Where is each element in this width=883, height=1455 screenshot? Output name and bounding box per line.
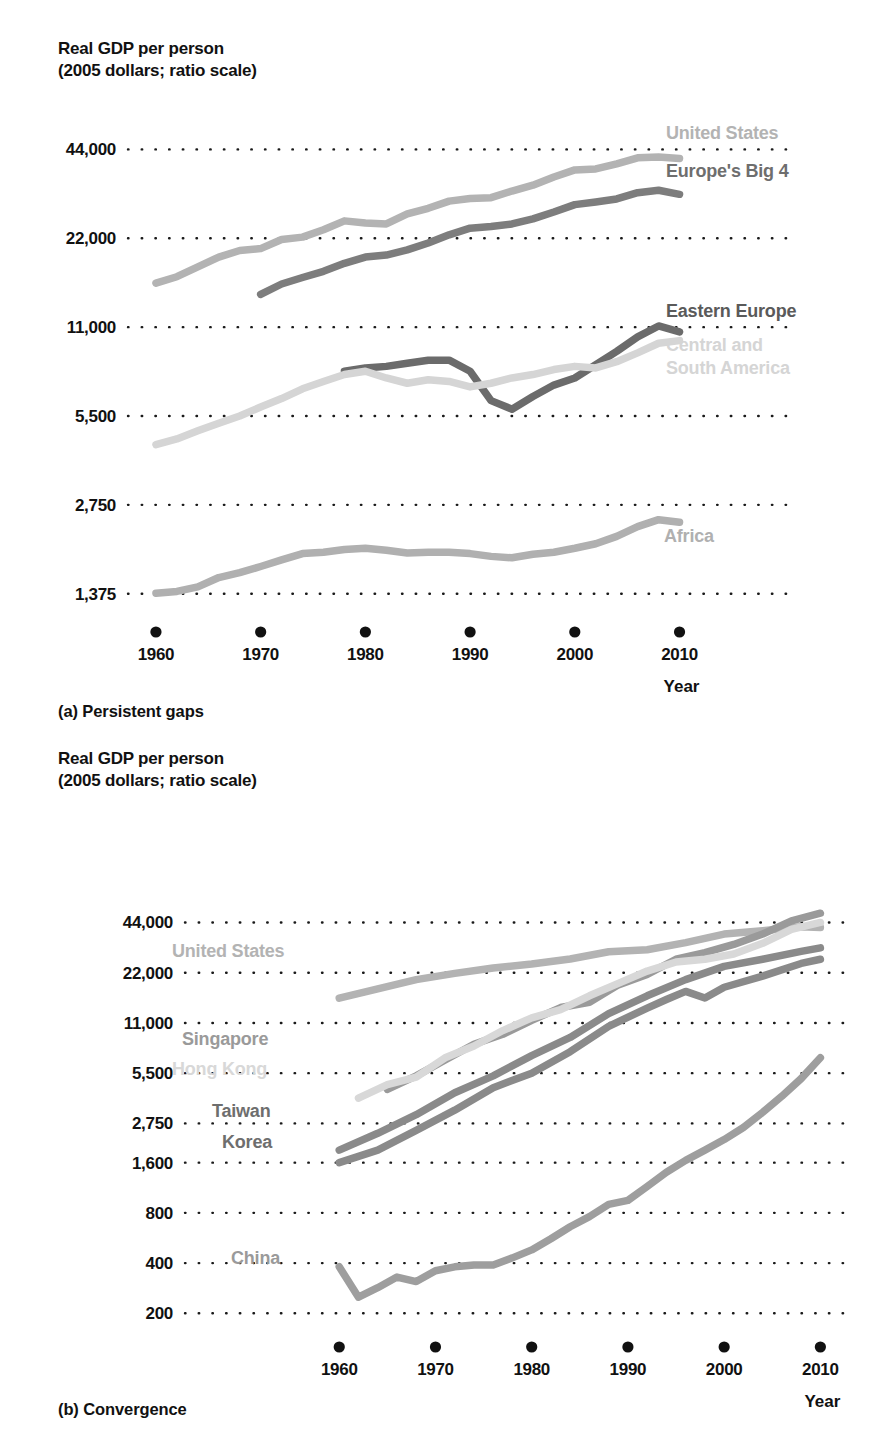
x-axis-tick-dot bbox=[569, 626, 580, 637]
panel-b-axis-title: Real GDP per person (2005 dollars; ratio… bbox=[58, 748, 257, 792]
x-axis-tick-label: 1960 bbox=[321, 1360, 358, 1379]
x-axis-tick-dot bbox=[360, 626, 371, 637]
panel-a-chart: 1,3752,7505,50011,00022,00044,0001960197… bbox=[0, 0, 883, 660]
series-label-taiwan: Taiwan bbox=[212, 1101, 270, 1121]
y-axis-tick-label: 1,600 bbox=[132, 1154, 173, 1173]
series-label-central-and-south-america-line2: South America bbox=[666, 358, 791, 378]
x-axis-tick-dot bbox=[334, 1341, 345, 1352]
x-axis-tick-dot bbox=[815, 1341, 826, 1352]
series-label-central-and-south-america-line1: Central and bbox=[666, 335, 763, 355]
series-label-eastern-europe: Eastern Europe bbox=[666, 301, 796, 321]
y-axis-tick-label: 5,500 bbox=[132, 1064, 173, 1083]
series-line-hong-kong bbox=[358, 922, 820, 1098]
x-axis-tick-label: 1960 bbox=[138, 645, 175, 664]
series-label-united-states: United States bbox=[666, 123, 779, 143]
y-axis-tick-label: 22,000 bbox=[123, 964, 173, 983]
y-axis-tick-label: 2,750 bbox=[75, 496, 116, 515]
series-label-korea: Korea bbox=[222, 1132, 273, 1152]
series-label-china: China bbox=[231, 1248, 281, 1268]
y-axis-tick-label: 5,500 bbox=[75, 407, 116, 426]
panel-persistent-gaps: Real GDP per person (2005 dollars; ratio… bbox=[0, 0, 883, 740]
y-axis-tick-label: 11,000 bbox=[124, 1014, 173, 1033]
series-label-africa: Africa bbox=[664, 526, 715, 546]
panel-b-chart: 2004008001,6002,7505,50011,00022,00044,0… bbox=[0, 800, 883, 1440]
y-axis-tick-label: 11,000 bbox=[67, 318, 116, 337]
series-label-singapore: Singapore bbox=[182, 1029, 268, 1049]
x-axis-tick-label: 1980 bbox=[347, 645, 384, 664]
x-axis-tick-label: 1990 bbox=[610, 1360, 647, 1379]
x-axis-tick-label: 1990 bbox=[452, 645, 489, 664]
x-axis-tick-dot bbox=[464, 626, 475, 637]
series-line-china bbox=[339, 1058, 820, 1297]
y-axis-tick-label: 2,750 bbox=[132, 1114, 173, 1133]
x-axis-tick-dot bbox=[255, 626, 266, 637]
x-axis-title: Year bbox=[664, 677, 700, 696]
series-line-korea bbox=[339, 959, 820, 1162]
series-line-singapore bbox=[387, 913, 820, 1089]
series-label-united-states: United States bbox=[172, 941, 285, 961]
x-axis-tick-dot bbox=[526, 1341, 537, 1352]
series-line-africa bbox=[156, 520, 680, 594]
y-axis-tick-label: 22,000 bbox=[66, 229, 116, 248]
x-axis-tick-dot bbox=[622, 1341, 633, 1352]
series-label-hong-kong: Hong Kong bbox=[172, 1059, 267, 1079]
y-axis-tick-label: 1,375 bbox=[75, 585, 116, 604]
y-axis-tick-label: 44,000 bbox=[66, 140, 116, 159]
x-axis-tick-label: 2000 bbox=[706, 1360, 743, 1379]
x-axis-title: Year bbox=[804, 1392, 840, 1411]
y-axis-tick-label: 400 bbox=[146, 1254, 173, 1273]
series-label-europes-big-4: Europe's Big 4 bbox=[666, 161, 789, 181]
x-axis-tick-dot bbox=[150, 626, 161, 637]
panel-b-caption: (b) Convergence bbox=[58, 1400, 187, 1419]
x-axis-tick-dot bbox=[719, 1341, 730, 1352]
series-line-europe-s-big-4 bbox=[261, 190, 680, 294]
panel-a-caption: (a) Persistent gaps bbox=[58, 702, 204, 721]
y-axis-tick-label: 44,000 bbox=[123, 913, 173, 932]
series-line-eastern-europe bbox=[344, 326, 679, 409]
x-axis-tick-label: 2000 bbox=[556, 645, 593, 664]
x-axis-tick-label: 2010 bbox=[802, 1360, 839, 1379]
series-line-central-and-south-america bbox=[156, 341, 680, 445]
x-axis-tick-label: 1970 bbox=[417, 1360, 454, 1379]
x-axis-tick-label: 1980 bbox=[513, 1360, 550, 1379]
x-axis-tick-label: 2010 bbox=[661, 645, 698, 664]
x-axis-tick-dot bbox=[674, 626, 685, 637]
x-axis-tick-label: 1970 bbox=[242, 645, 279, 664]
x-axis-tick-dot bbox=[430, 1341, 441, 1352]
y-axis-tick-label: 200 bbox=[146, 1304, 173, 1323]
y-axis-tick-label: 800 bbox=[146, 1204, 173, 1223]
series-line-united-states bbox=[156, 157, 680, 283]
panel-convergence: Real GDP per person (2005 dollars; ratio… bbox=[0, 740, 883, 1455]
